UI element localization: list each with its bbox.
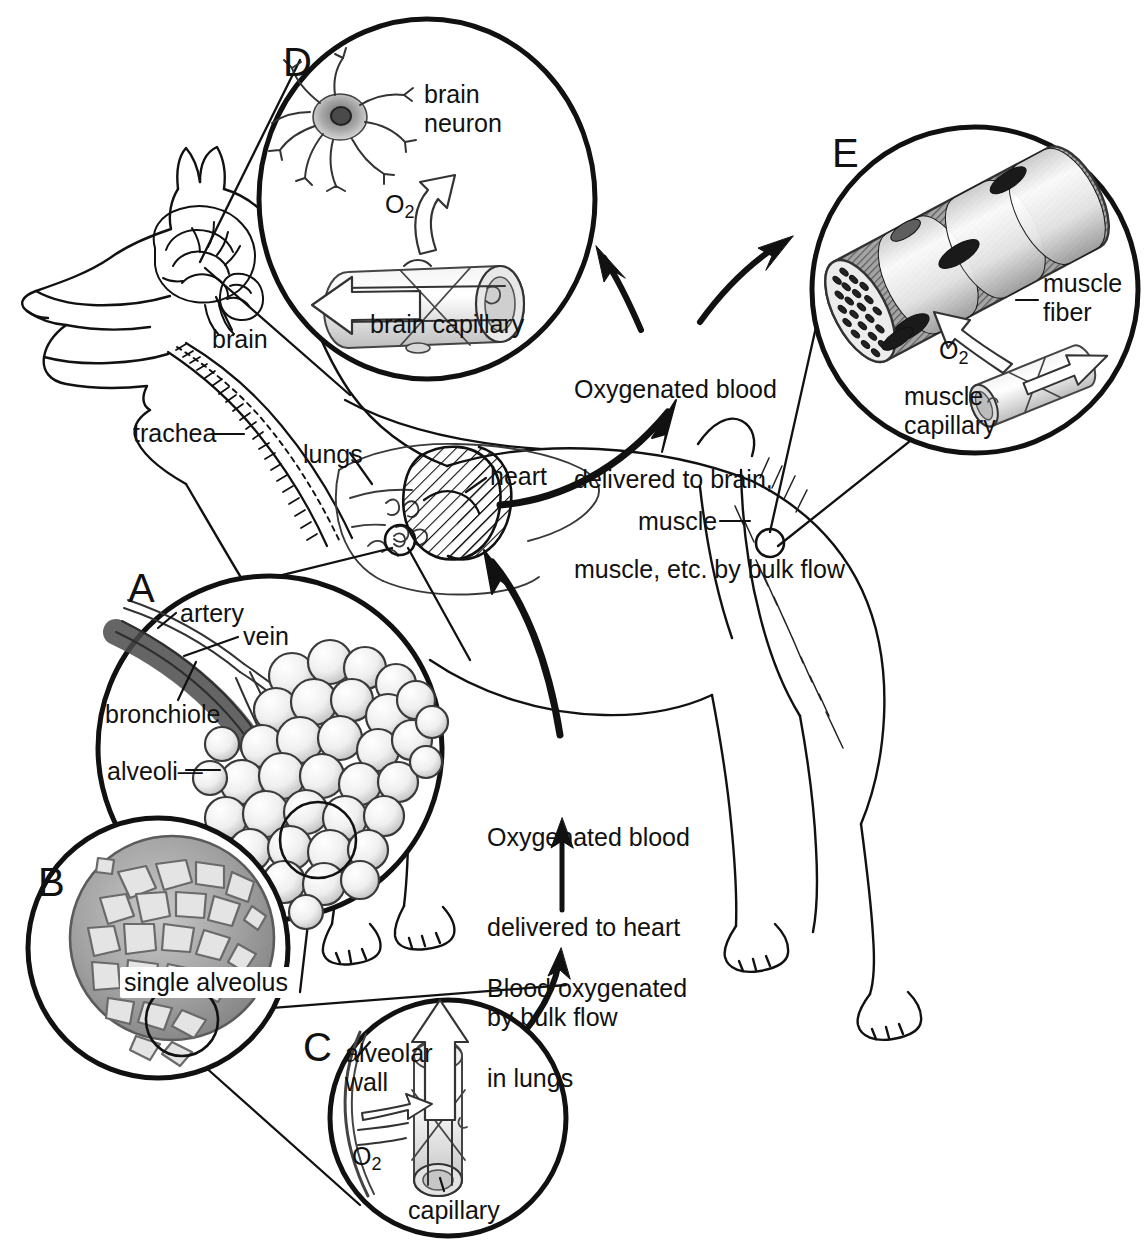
single-alveolus-label: single alveolus [120, 967, 292, 998]
trachea-label: trachea [133, 419, 216, 448]
brain-capillary-tube [312, 260, 524, 353]
alveolar-wall-label-line2: wall [345, 1068, 388, 1097]
muscle-capillary-label-line2: capillary [904, 411, 996, 440]
panel-letter-d: D [283, 42, 312, 82]
flow-line-2: delivered to brain, [574, 464, 845, 494]
lungs-label: lungs [303, 440, 363, 469]
figure-canvas: D E A B C brain neuron O2 brain capillar… [0, 0, 1144, 1240]
alveoli-label: alveoli— [107, 757, 203, 786]
alveolar-wall-label-line1: alveolar [345, 1039, 433, 1068]
panel-letter-a: A [128, 568, 155, 608]
flow-text-in-lungs: Blood oxygenated in lungs [487, 913, 687, 1153]
flow-line-3: muscle, etc. by bulk flow [574, 554, 845, 584]
brain-neuron-label-line1: brain [424, 80, 480, 109]
oxygen-label-panel-d: O2 [385, 190, 414, 227]
heart-label: heart [490, 462, 547, 491]
panel-letter-e: E [832, 133, 859, 173]
flow-line-1: Blood oxygenated [487, 973, 687, 1003]
muscle-capillary-label-line1: muscle [904, 382, 983, 411]
capillary-label: capillary [408, 1196, 500, 1225]
flow-text-to-brain-muscle: Oxygenated blood delivered to brain, mus… [574, 314, 845, 644]
brain-neuron-label-line2: neuron [424, 109, 502, 138]
flow-line-1: Oxygenated blood [487, 822, 690, 852]
brain-label: brain [212, 325, 268, 354]
vein-label: vein [243, 622, 289, 651]
panel-letter-c: C [303, 1027, 332, 1067]
bronchiole-label: bronchiole [105, 700, 220, 729]
brain-capillary-label: brain capillary [370, 310, 524, 339]
muscle-fiber-label-line2: fiber [1043, 298, 1092, 327]
oxygen-label-panel-e: O2 [939, 336, 968, 373]
muscle-fiber-label-line1: muscle [1043, 269, 1122, 298]
artery-label: artery [180, 599, 244, 628]
panel-letter-b: B [38, 862, 65, 902]
flow-line-2: in lungs [487, 1063, 687, 1093]
flow-line-1: Oxygenated blood [574, 374, 845, 404]
oxygen-label-panel-c: O2 [352, 1142, 381, 1179]
